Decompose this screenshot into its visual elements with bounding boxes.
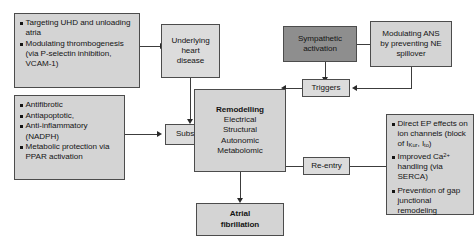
node-direct-ep-effects: Direct EP effects on ion channels (block… [386, 114, 474, 215]
node-line: fibrillation [221, 220, 260, 230]
node-triggers: Triggers [302, 79, 350, 97]
flow-diagram: Targeting UHD and unloading atria Modula… [0, 0, 476, 247]
list-item: Targeting UHD and unloading atria [19, 18, 135, 38]
node-label: Triggers [312, 83, 341, 93]
connector-uhd-to-heart-disease [139, 46, 161, 47]
node-line: disease [177, 56, 205, 66]
node-line: Sympathetic [298, 34, 342, 44]
list-item: Modulating thrombogenesis (via P-selecti… [19, 39, 135, 70]
targeting-uhd-list: Targeting UHD and unloading atria Modula… [19, 18, 135, 69]
node-re-entry: Re-entry [303, 157, 350, 175]
node-sympathetic-activation: Sympathetic activation [283, 26, 357, 62]
list-item: Direct EP effects on ion channels (block… [391, 119, 469, 150]
node-line: Autonomic [221, 136, 259, 146]
node-antifibrotic: Antifibrotic Antiapoptotic, Anti-inflamm… [14, 95, 125, 180]
connector-antifibrotic-to-substrate [125, 134, 158, 135]
connector-ans-to-triggers-vertical [411, 67, 412, 89]
node-remodelling: Remodelling Electrical Structural Autono… [194, 89, 286, 172]
connector-ep-effects-to-re-entry [350, 166, 386, 167]
node-line: spillover [396, 49, 425, 59]
arrowhead-ans-to-triggers [352, 85, 357, 91]
node-atrial-fibrillation: Atrial fibrillation [196, 203, 284, 236]
node-underlying-heart-disease: Underlying heart disease [161, 24, 220, 78]
node-modulating-ans: Modulating ANS by preventing NE spillove… [370, 21, 452, 67]
connector-heart-disease-to-substrate [190, 78, 191, 121]
node-line: by preventing NE [380, 39, 441, 49]
arrowhead-antifibrotic-to-substrate [157, 131, 162, 137]
node-line: Electrical [224, 115, 256, 125]
list-item: Antifibrotic [19, 100, 120, 110]
list-item: Antiapoptotic, [19, 111, 120, 121]
node-line: Structural [223, 125, 257, 135]
node-targeting-uhd: Targeting UHD and unloading atria Modula… [14, 13, 140, 88]
node-heading: Remodelling [216, 105, 264, 115]
list-item: Improved Ca2+ handling (via SERCA) [391, 152, 469, 183]
node-line: heart [181, 46, 199, 56]
connector-ans-to-triggers-horizontal [357, 88, 412, 89]
node-line: Atrial [230, 209, 250, 219]
antifibrotic-list: Antifibrotic Antiapoptotic, Anti-inflamm… [19, 100, 120, 163]
node-line: Underlying [171, 36, 209, 46]
list-item: Anti-inflammatory (NADPH) [19, 121, 120, 141]
direct-ep-effects-list: Direct EP effects on ion channels (block… [391, 119, 469, 216]
node-line: activation [303, 44, 337, 54]
connector-triggers-to-remodelling [285, 88, 302, 89]
node-label: Re-entry [311, 161, 342, 171]
list-item: Prevention of gap junctional remodeling [391, 186, 469, 217]
node-line: Metabolomic [217, 146, 262, 156]
connector-re-entry-to-remodelling [285, 166, 303, 167]
connector-remodelling-to-af [240, 172, 241, 200]
node-line: Modulating ANS [382, 29, 439, 39]
list-item: Metabolic protection via PPAR activation [19, 142, 120, 162]
